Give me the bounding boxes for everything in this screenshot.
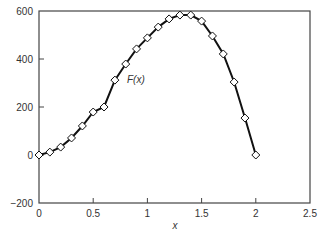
x-tick-label: 1 xyxy=(145,208,151,219)
plot-frame xyxy=(39,11,310,203)
x-tick-label: 1.5 xyxy=(195,208,209,219)
x-tick-label: 0 xyxy=(36,208,42,219)
x-tick-label: 0.5 xyxy=(86,208,100,219)
x-tick-label: 2.5 xyxy=(303,208,317,219)
x-axis-label: x xyxy=(172,220,179,231)
curve-annotation: F(x) xyxy=(127,74,145,85)
y-tick-label: 200 xyxy=(16,102,33,113)
line-chart: −2000200400600 00.511.522.5 F(x) x xyxy=(0,0,319,236)
y-tick-label: 0 xyxy=(27,150,33,161)
x-tick-label: 2 xyxy=(253,208,259,219)
y-tick-label: 600 xyxy=(16,6,33,17)
y-tick-label: 400 xyxy=(16,54,33,65)
y-tick-label: −200 xyxy=(10,198,33,209)
